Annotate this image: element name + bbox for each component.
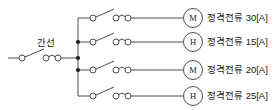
distribution-bus bbox=[76, 18, 80, 96]
branch-4-fuse-element bbox=[119, 93, 126, 95]
branch-3-rating-label: 정격전류 20[A] bbox=[207, 65, 268, 75]
branch-1-fuse-element bbox=[119, 15, 126, 17]
branch-circuit-3: M bbox=[78, 61, 203, 80]
branch-2-load-symbol-letter: H bbox=[190, 37, 196, 47]
branch-4-switch-terminal bbox=[90, 93, 96, 99]
main-fuse-right-terminal bbox=[55, 55, 61, 61]
bus-junction-dot-supply bbox=[76, 56, 80, 60]
branch-4-rating-label: 정격전류 25[A] bbox=[207, 91, 268, 101]
branch-4-fuse-left-terminal bbox=[113, 93, 119, 99]
branch-3-switch-blade bbox=[96, 61, 114, 69]
main-line-knife-switch bbox=[25, 49, 44, 57]
branch-3-fuse-left-terminal bbox=[113, 67, 119, 73]
branch-circuit-2: H bbox=[78, 33, 203, 52]
supply-terminal-circle bbox=[19, 55, 25, 61]
branch-2-fuse-left-terminal bbox=[113, 39, 119, 45]
branch-3-load-symbol-letter: M bbox=[189, 65, 197, 75]
main-line-label: 간선 bbox=[37, 38, 55, 48]
main-fuse-left-terminal bbox=[43, 55, 49, 61]
branch-1-load-symbol-letter: M bbox=[189, 13, 197, 23]
branch-circuit-1: M bbox=[78, 9, 203, 28]
circuit-diagram-canvas: M H M bbox=[0, 0, 279, 110]
branch-2-switch-terminal bbox=[90, 39, 96, 45]
main-line-fuse bbox=[43, 55, 78, 61]
branch-1-fuse-right-terminal bbox=[125, 15, 131, 21]
branch-1-switch-blade bbox=[96, 9, 114, 17]
branch-2-rating-label: 정격전류 15[A] bbox=[207, 37, 268, 47]
incoming-supply-line bbox=[8, 55, 25, 61]
branch-2-switch-blade bbox=[96, 33, 114, 41]
main-fuse-element bbox=[49, 55, 56, 57]
branch-1-rating-label: 정격전류 30[A] bbox=[207, 13, 268, 23]
branch-3-fuse-right-terminal bbox=[125, 67, 131, 73]
branch-4-load-symbol-letter: H bbox=[190, 91, 196, 101]
branch-2-fuse-right-terminal bbox=[125, 39, 131, 45]
branch-circuit-4: H bbox=[78, 87, 203, 106]
branch-4-fuse-right-terminal bbox=[125, 93, 131, 99]
branch-1-fuse-left-terminal bbox=[113, 15, 119, 21]
branch-4-switch-blade bbox=[96, 87, 114, 95]
branch-2-fuse-element bbox=[119, 39, 126, 41]
branch-1-switch-terminal bbox=[90, 15, 96, 21]
branch-3-switch-terminal bbox=[90, 67, 96, 73]
branch-3-fuse-element bbox=[119, 67, 126, 69]
